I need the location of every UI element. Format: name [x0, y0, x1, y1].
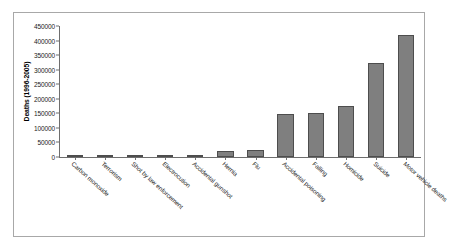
bar-slot: [391, 26, 421, 157]
bar-slot: [271, 26, 301, 157]
y-axis-tick-mark: [56, 127, 59, 128]
x-label-slot: Falling: [301, 158, 331, 236]
bar[interactable]: [308, 113, 324, 157]
y-axis-title: Deaths (1996-2005): [21, 26, 33, 157]
x-axis-category-label: Motor vehicle deaths: [402, 160, 448, 203]
bar-slot: [90, 26, 120, 157]
bar[interactable]: [277, 114, 293, 157]
x-label-slot: Electrocution: [151, 158, 181, 236]
bar-slot: [301, 26, 331, 157]
x-label-slot: Shot by law enforcement: [120, 158, 150, 236]
y-axis-tick-mark: [56, 69, 59, 70]
bar[interactable]: [398, 35, 414, 157]
x-axis-labels: Carbon monoxideTerrorismShot by law enfo…: [60, 158, 422, 236]
x-axis-category-label: Suicide: [372, 160, 392, 179]
x-axis-category-label: Falling: [312, 160, 330, 177]
plot-area: 0500001000001500002000002500003000003500…: [59, 26, 421, 157]
y-axis-title-text: Deaths (1996-2005): [24, 62, 31, 122]
y-axis-tick-mark: [56, 55, 59, 56]
y-axis-tick-mark: [56, 98, 59, 99]
bar-slot: [331, 26, 361, 157]
y-axis-tick-mark: [56, 40, 59, 41]
bar-slot: [210, 26, 240, 157]
x-axis-category-label: Flu: [251, 160, 262, 171]
x-label-slot: Suicide: [362, 158, 392, 236]
bar[interactable]: [338, 106, 354, 157]
bar-slot: [361, 26, 391, 157]
y-axis-tick-mark: [56, 84, 59, 85]
bar-slot: [240, 26, 270, 157]
bar-slot: [120, 26, 150, 157]
bar-series: [60, 26, 421, 157]
x-axis-category-label: Hernia: [221, 160, 239, 177]
y-axis-tick-mark: [56, 113, 59, 114]
x-label-slot: Hernia: [211, 158, 241, 236]
chart-frame: Deaths (1996-2005) 050000100000150000200…: [13, 12, 425, 237]
bar[interactable]: [247, 150, 263, 157]
x-label-slot: Homicide: [332, 158, 362, 236]
x-label-slot: Carbon monoxide: [60, 158, 90, 236]
y-axis-tick-mark: [56, 142, 59, 143]
bar-slot: [150, 26, 180, 157]
bar-slot: [60, 26, 90, 157]
x-label-slot: Accidental poisoning: [271, 158, 301, 236]
bar[interactable]: [368, 63, 384, 157]
x-label-slot: Flu: [241, 158, 271, 236]
x-label-slot: Terrorism: [90, 158, 120, 236]
y-axis-tick-mark: [56, 26, 59, 27]
bar-slot: [180, 26, 210, 157]
y-axis-tick-mark: [56, 157, 59, 158]
x-label-slot: Accidental gunshot: [181, 158, 211, 236]
x-label-slot: Motor vehicle deaths: [392, 158, 422, 236]
